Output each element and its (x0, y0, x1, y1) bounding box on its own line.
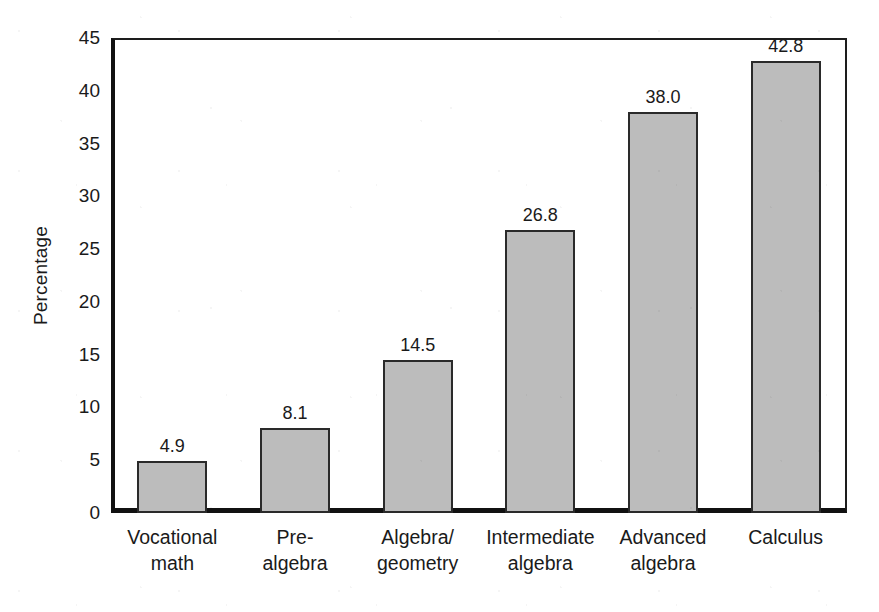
x-axis-label-line2: algebra (473, 550, 608, 576)
y-axis-tick-label: 45 (40, 27, 100, 48)
bar[interactable] (383, 360, 453, 513)
y-axis-tick-label: 35 (40, 133, 100, 154)
x-axis-category-label: Algebra/geometry (350, 524, 485, 576)
x-axis-label-line1: Vocational (127, 526, 217, 548)
y-axis-tick-label: 40 (40, 80, 100, 101)
x-axis-category-label: Advancedalgebra (596, 524, 731, 576)
x-axis-category-label: Vocationalmath (105, 524, 240, 576)
x-axis-category-label: Calculus (718, 524, 853, 550)
bar-value-label: 26.8 (490, 205, 590, 226)
y-axis-tick-label: 15 (40, 344, 100, 365)
bar[interactable] (628, 112, 698, 513)
bar-value-label: 14.5 (368, 335, 468, 356)
y-axis-tick-label: 25 (40, 238, 100, 259)
bar-value-label: 42.8 (736, 36, 836, 57)
x-axis-label-line2: math (105, 550, 240, 576)
y-axis-tick-label: 10 (40, 396, 100, 417)
y-axis-title: Percentage (28, 38, 54, 513)
bar[interactable] (260, 428, 330, 514)
bar[interactable] (137, 461, 207, 513)
bar-value-label: 38.0 (613, 87, 713, 108)
bar-chart-figure: Percentage 051015202530354045 4.98.114.5… (0, 0, 879, 612)
y-axis-tick-label: 30 (40, 185, 100, 206)
bar[interactable] (505, 230, 575, 513)
x-axis-label-line1: Calculus (748, 526, 823, 548)
x-axis-label-line1: Algebra/ (381, 526, 454, 548)
bar-value-label: 8.1 (245, 403, 345, 424)
x-axis-label-line2: algebra (228, 550, 363, 576)
x-axis-category-label: Pre-algebra (228, 524, 363, 576)
x-axis-label-line1: Intermediate (486, 526, 594, 548)
bar-value-label: 4.9 (122, 436, 222, 457)
x-axis-label-line1: Advanced (620, 526, 707, 548)
y-axis-tick-label: 20 (40, 291, 100, 312)
x-axis-category-label: Intermediatealgebra (473, 524, 608, 576)
x-axis-label-line2: geometry (350, 550, 485, 576)
y-axis-tick-label: 0 (40, 502, 100, 523)
bar[interactable] (751, 61, 821, 513)
y-axis-tick-label: 5 (40, 449, 100, 470)
x-axis-label-line1: Pre- (277, 526, 314, 548)
x-axis-label-line2: algebra (596, 550, 731, 576)
